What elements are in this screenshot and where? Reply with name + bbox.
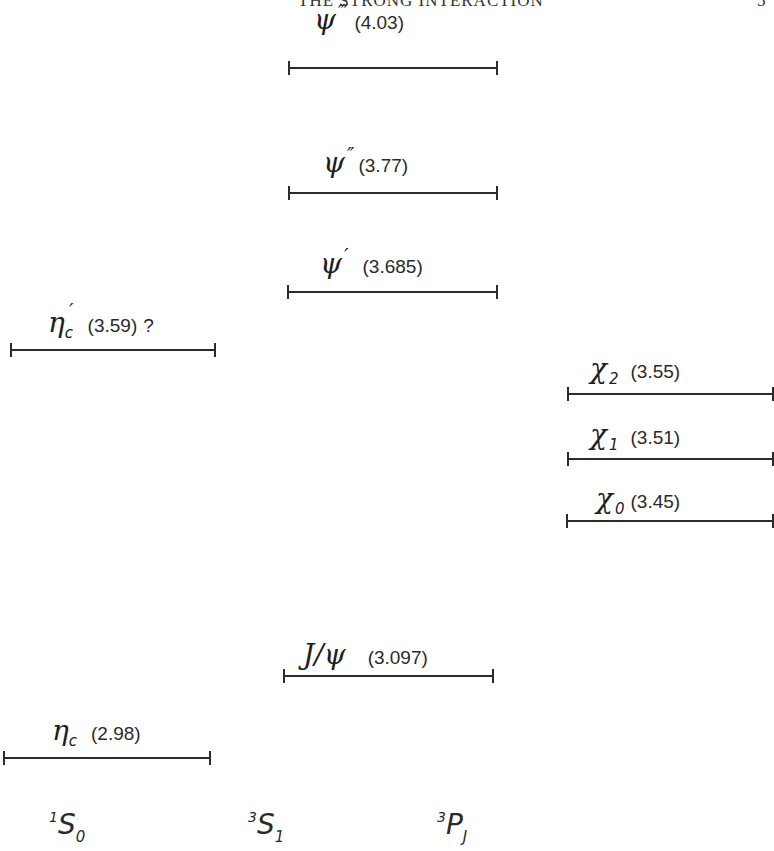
chi-symbol: χ [590,352,607,385]
subscript: c [69,732,77,750]
mass-value: (3.45) [631,491,681,513]
prime-mark: ″ [347,143,354,167]
page-number: 5 [757,0,766,11]
j-psi-symbol: J/ψ [303,638,346,671]
eta-symbol: η [52,714,69,747]
psi-symbol: ψ [314,3,336,36]
uncertain-mark: ? [143,315,154,337]
chi-symbol: χ [596,482,613,515]
psi-triple-prime-label: ψ ‴ (4.03) [314,3,404,36]
energy-level-eta-c [3,751,211,765]
prime-mark: ′ [344,244,349,268]
column-label-1S0: 1S0 [49,808,85,841]
mass-value: (3.77) [358,155,408,177]
mass-value: (3.097) [368,647,428,669]
eta-c-prime-label: η c ′ (3.59) ? [48,306,154,339]
energy-level-chi-0 [566,514,774,528]
psi-double-prime-label: ψ ″ (3.77) [323,146,408,179]
energy-level-chi-2 [567,387,774,401]
subscript: 2 [609,370,619,388]
mass-value: (3.51) [631,427,681,449]
psi-symbol: ψ [320,247,342,280]
chi-1-label: χ 1 (3.51) [590,418,680,451]
subscript: c [65,324,73,342]
chi-symbol: χ [590,418,607,451]
eta-symbol: η [48,306,65,339]
prime-mark: ‴ [338,0,348,24]
psi-prime-label: ψ ′ (3.685) [320,247,423,280]
mass-value: (4.03) [354,12,404,34]
energy-level-chi-1 [567,452,774,466]
eta-c-label: η c (2.98) [52,714,141,747]
mass-value: (2.98) [91,723,141,745]
chi-0-label: χ 0 (3.45) [596,482,680,515]
psi-symbol: ψ [323,146,345,179]
column-label-3PJ: 3PJ [437,808,467,841]
mass-value: (3.59) [88,315,138,337]
column-label-3S1: 3S1 [248,808,284,841]
energy-level-j-psi [283,669,494,683]
energy-level-psi-double-prime [288,186,498,200]
j-psi-label: J/ψ (3.097) [303,638,428,671]
energy-level-eta-c-prime [10,343,216,357]
prime-mark: ′ [69,299,74,323]
energy-level-psi-triple-prime [288,61,498,75]
chi-2-label: χ 2 (3.55) [590,352,680,385]
mass-value: (3.685) [363,256,423,278]
mass-value: (3.55) [631,361,681,383]
energy-level-psi-prime [287,285,498,299]
